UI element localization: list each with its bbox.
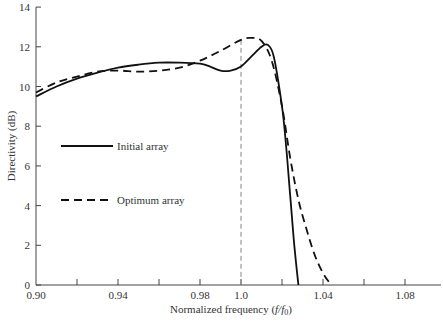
legend: Initial array Optimum array — [61, 140, 185, 206]
x-tick-label: 1.08 — [395, 289, 415, 301]
initial-array-curve — [36, 44, 298, 285]
x-axis-label: Normalized frequency (f/f0) — [170, 303, 292, 317]
series-group — [36, 38, 331, 285]
x-tick-label: 1.0 — [234, 289, 248, 301]
y-tick-label: 8 — [25, 120, 31, 132]
directivity-chart: 024681012140.900.940.981.01.041.08 Initi… — [0, 0, 443, 321]
x-tick-label: 0.98 — [190, 289, 210, 301]
y-tick-label: 12 — [19, 41, 30, 53]
y-tick-label: 4 — [25, 200, 31, 212]
x-tick-label: 0.90 — [26, 289, 46, 301]
y-tick-label: 6 — [25, 160, 31, 172]
x-tick-label: 1.04 — [313, 289, 333, 301]
legend-optimum-label: Optimum array — [117, 194, 185, 206]
x-tick-label: 0.94 — [108, 289, 128, 301]
y-tick-label: 10 — [19, 81, 31, 93]
y-tick-label: 14 — [19, 1, 31, 13]
y-axis-label: Directivity (dB) — [5, 110, 18, 181]
y-tick-label: 2 — [25, 239, 31, 251]
legend-initial-label: Initial array — [117, 140, 169, 152]
